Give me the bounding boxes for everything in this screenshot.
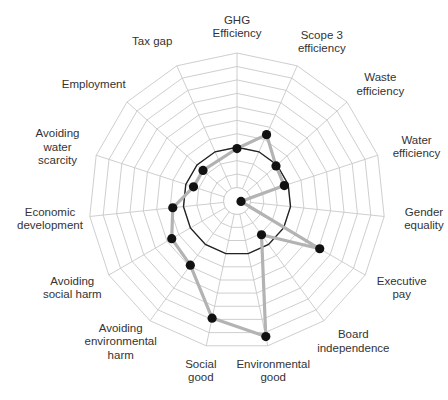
axis-label: Waterefficiency: [393, 134, 441, 160]
data-point: [167, 234, 176, 243]
axis-label: Employment: [62, 78, 127, 90]
axis-label-line: Scope 3: [301, 29, 343, 41]
axis-label: Wasteefficiency: [356, 71, 404, 97]
data-point: [198, 166, 207, 175]
axis-label-line: Water: [401, 134, 431, 146]
axis-label-line: Efficiency: [212, 27, 261, 39]
data-point: [261, 332, 270, 341]
axis-label-line: Avoiding: [50, 275, 94, 287]
axis-label: Avoidingwaterscarcity: [36, 127, 80, 166]
axis-label-line: scarcity: [38, 154, 77, 166]
axis-label-line: efficiency: [393, 147, 441, 159]
axis-label-line: Economic: [25, 206, 76, 218]
axis-label: Executivepay: [377, 275, 427, 301]
axis-label: Socialgood: [185, 358, 216, 384]
axis-label-line: Environmental: [236, 358, 310, 370]
axis-label-line: environmental: [85, 335, 157, 347]
axis-label-line: Tax gap: [132, 35, 172, 47]
axis-label: Environmentalgood: [236, 358, 310, 384]
axis-label-line: pay: [392, 288, 411, 300]
axis-spoke: [242, 66, 297, 189]
data-point: [236, 197, 245, 206]
axis-label-line: GHG: [224, 14, 250, 26]
axis-label-line: Avoiding: [99, 322, 143, 334]
axis-label-line: Social: [185, 358, 216, 370]
axis-label-line: development: [17, 219, 84, 231]
axis-label: Scope 3efficiency: [298, 29, 346, 55]
axis-label-line: Employment: [62, 78, 127, 90]
data-point: [280, 181, 289, 190]
axis-label: Tax gap: [132, 35, 172, 47]
axis-spoke: [250, 202, 384, 216]
axis-spoke: [96, 155, 224, 197]
axis-label: Avoidingenvironmentalharm: [85, 322, 157, 361]
axis-label-line: good: [260, 371, 286, 383]
axis-label-line: efficiency: [298, 42, 346, 54]
axis-label-line: social harm: [43, 288, 102, 300]
axis-label: Boardindependence: [317, 328, 389, 354]
axis-label-line: good: [188, 371, 214, 383]
axis-label-line: efficiency: [356, 85, 404, 97]
axis-label-line: harm: [108, 349, 134, 361]
radar-chart: GHGEfficiencyScope 3efficiencyWasteeffic…: [0, 0, 448, 400]
axis-label-line: Executive: [377, 275, 427, 287]
axis-spoke: [247, 102, 347, 192]
data-point: [189, 182, 198, 191]
axis-label: Avoidingsocial harm: [43, 275, 102, 301]
axis-label-line: equality: [404, 219, 444, 231]
axis-label: Economicdevelopment: [17, 206, 84, 232]
axis-label-line: independence: [317, 342, 389, 354]
data-point: [257, 230, 266, 239]
axis-label: Genderequality: [404, 206, 444, 232]
axis-label-line: Waste: [364, 71, 396, 83]
axis-label: GHGEfficiency: [212, 14, 261, 39]
data-point: [232, 144, 241, 153]
axis-spoke: [90, 202, 224, 216]
radar-plot: GHGEfficiencyScope 3efficiencyWasteeffic…: [0, 0, 448, 400]
data-point: [208, 314, 217, 323]
data-point: [186, 261, 195, 270]
data-point: [262, 130, 271, 139]
data-point: [271, 161, 280, 170]
axis-label-line: Avoiding: [36, 127, 80, 139]
axis-spoke: [127, 102, 227, 192]
axis-label-line: Gender: [405, 206, 444, 218]
axis-label-line: water: [42, 141, 71, 153]
axis-label-line: Board: [338, 328, 369, 340]
data-point: [168, 203, 177, 212]
data-point: [315, 244, 324, 253]
